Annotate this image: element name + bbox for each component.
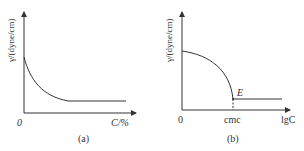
y-axis-label-a: γ/(dyne/cm) [6, 19, 16, 63]
curve-a [24, 57, 126, 101]
cmc-tick-label: cmc [224, 114, 241, 125]
caption-a: (a) [78, 133, 89, 145]
origin-label-a: 0 [17, 117, 22, 128]
y-axis-label-b: γ/(dyne/cm) [164, 19, 174, 63]
x-axis-label-b: lgC [281, 114, 296, 125]
point-e [232, 98, 234, 100]
panel-b: E 0 cmc lgC (b) γ/(dyne/cm) [164, 12, 296, 145]
caption-b: (b) [227, 133, 239, 145]
point-e-label: E [236, 87, 243, 98]
x-axis-label-a: C/% [111, 117, 129, 128]
curve-b [182, 51, 233, 99]
origin-label-b: 0 [178, 114, 183, 125]
panel-a: 0 C/% (a) γ/(dyne/cm) [6, 12, 136, 145]
